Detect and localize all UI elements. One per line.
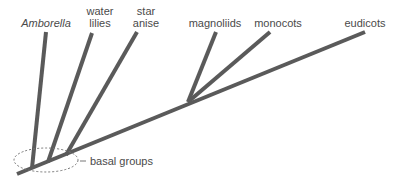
label-monocots: monocots: [250, 17, 306, 29]
label-star-anise: star anise: [126, 5, 166, 29]
label-water-lilies: water lilies: [80, 5, 120, 29]
branch-water-lilies: [48, 33, 92, 162]
label-amborella: Amborella: [20, 17, 72, 29]
label-water-lilies-line2: lilies: [80, 17, 120, 29]
label-magnoliids: magnoliids: [185, 17, 245, 29]
label-basal-groups: basal groups: [90, 155, 153, 167]
branch-star-anise: [66, 32, 137, 155]
label-star-anise-line2: anise: [126, 17, 166, 29]
label-eudicots: eudicots: [340, 17, 390, 29]
branch-amborella: [32, 32, 46, 168]
label-water-lilies-line1: water: [80, 5, 120, 17]
label-star-anise-line1: star: [126, 5, 166, 17]
